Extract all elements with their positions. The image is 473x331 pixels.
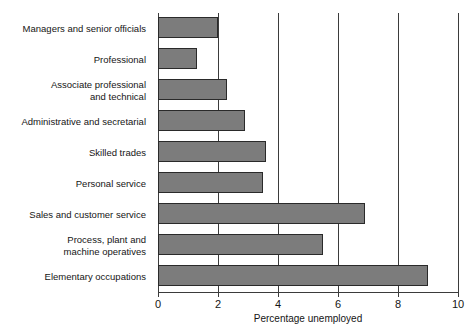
bar-row	[158, 106, 458, 137]
bar[interactable]	[158, 172, 263, 193]
x-tick	[218, 292, 219, 297]
bar-chart: Managers and senior officialsProfessiona…	[0, 0, 473, 331]
bars-layer	[158, 13, 458, 292]
bar-row	[158, 137, 458, 168]
category-label: Administrative and secretarial	[0, 116, 152, 128]
category-label-line: Administrative and secretarial	[0, 116, 146, 128]
bar-row	[158, 168, 458, 199]
x-tick	[398, 292, 399, 297]
category-label-line: machine operatives	[0, 246, 146, 258]
bar[interactable]	[158, 203, 365, 224]
x-tick	[158, 292, 159, 297]
x-axis-title: Percentage unemployed	[158, 313, 458, 325]
x-tick-label: 4	[263, 298, 293, 311]
x-tick-label: 2	[203, 298, 233, 311]
category-label: Managers and senior officials	[0, 23, 152, 35]
category-label: Skilled trades	[0, 147, 152, 159]
category-label: Associate professionaland technical	[0, 79, 152, 102]
category-label: Personal service	[0, 178, 152, 190]
category-label: Professional	[0, 54, 152, 66]
plot-area	[158, 13, 458, 292]
bar-row	[158, 75, 458, 106]
x-tick	[338, 292, 339, 297]
category-label-line: and technical	[0, 91, 146, 103]
category-label-line: Elementary occupations	[0, 271, 146, 283]
bar-row	[158, 261, 458, 292]
bar[interactable]	[158, 110, 245, 131]
category-label-line: Skilled trades	[0, 147, 146, 159]
gridline-10	[458, 13, 459, 292]
category-label-line: Managers and senior officials	[0, 23, 146, 35]
category-label-line: Personal service	[0, 178, 146, 190]
bar[interactable]	[158, 17, 218, 38]
x-tick-label: 6	[323, 298, 353, 311]
x-tick-label: 0	[143, 298, 173, 311]
category-label-line: Professional	[0, 54, 146, 66]
category-label: Process, plant andmachine operatives	[0, 234, 152, 257]
bar[interactable]	[158, 48, 197, 69]
bar-row	[158, 44, 458, 75]
x-tick-label: 8	[383, 298, 413, 311]
category-label-line: Associate professional	[0, 79, 146, 91]
bar-row	[158, 13, 458, 44]
bar[interactable]	[158, 265, 428, 286]
category-label-line: Sales and customer service	[0, 209, 146, 221]
x-axis-line	[158, 292, 459, 293]
bar[interactable]	[158, 234, 323, 255]
category-label-line: Process, plant and	[0, 234, 146, 246]
bar-row	[158, 230, 458, 261]
bar[interactable]	[158, 141, 266, 162]
category-axis-labels: Managers and senior officialsProfessiona…	[0, 13, 152, 292]
bar-row	[158, 199, 458, 230]
bar[interactable]	[158, 79, 227, 100]
x-tick	[458, 292, 459, 297]
category-label: Elementary occupations	[0, 271, 152, 283]
category-label: Sales and customer service	[0, 209, 152, 221]
x-tick	[278, 292, 279, 297]
x-tick-label: 10	[443, 298, 473, 311]
